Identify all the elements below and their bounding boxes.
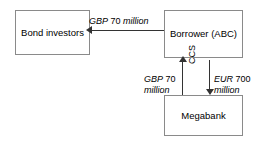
diagram-canvas: Bond investors Borrower (ABC) Megabank G… — [0, 0, 270, 146]
node-bond-investors[interactable]: Bond investors — [15, 10, 90, 55]
node-megabank-label: Megabank — [181, 110, 225, 122]
edge-gbp-leg-unit: million — [144, 85, 170, 95]
annotation-ccs: CCS — [187, 32, 217, 62]
edge-eur-leg-unit: million — [214, 85, 240, 95]
edge-eur-leg-amount: 700 — [236, 74, 251, 84]
node-bond-investors-label: Bond investors — [21, 27, 84, 39]
edge-bond-flow-unit: million — [123, 16, 149, 26]
annotation-ccs-label: CCS — [187, 45, 198, 64]
edge-label-bond-flow: GBP 70 million — [89, 16, 149, 27]
arrowhead-left-icon — [86, 26, 92, 34]
connector-gbp-leg — [182, 62, 183, 95]
arrowhead-down-icon — [206, 89, 214, 95]
connector-bond-flow — [90, 30, 164, 31]
arrowhead-up-icon — [179, 56, 187, 62]
edge-gbp-leg-currency: GBP — [144, 74, 163, 84]
edge-bond-flow-amount: 70 — [111, 16, 121, 26]
edge-label-gbp-leg: GBP 70million — [144, 63, 180, 96]
node-megabank[interactable]: Megabank — [164, 95, 243, 136]
edge-eur-leg-currency: EUR — [214, 74, 233, 84]
edge-bond-flow-currency: GBP — [89, 16, 108, 26]
edge-gbp-leg-amount: 70 — [166, 74, 176, 84]
edge-label-eur-leg: EUR 700million — [214, 63, 264, 96]
